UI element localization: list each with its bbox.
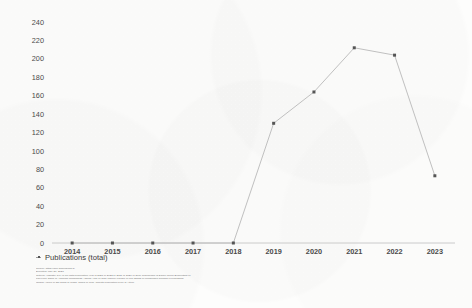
- y-axis-tick-label: 60: [36, 183, 44, 192]
- footnote-line-criteria-3: landed Aurien or Zhi Gang or Mohd. aimed…: [36, 281, 286, 284]
- data-point-marker: [71, 242, 74, 245]
- data-point-marker: [433, 174, 436, 177]
- x-axis-tick-label: 2016: [145, 247, 161, 256]
- x-axis-tick-label: 2020: [306, 247, 322, 256]
- data-point-marker: [111, 242, 114, 245]
- y-axis-tick-label: 100: [32, 147, 44, 156]
- publications-line-chart: 0204060801001201401601802002202402014201…: [0, 0, 472, 308]
- series-line-publications: [72, 48, 435, 243]
- legend-label-publications: Publications (total): [45, 253, 107, 262]
- y-axis-tick-label: 0: [40, 239, 44, 248]
- data-point-marker: [151, 242, 154, 245]
- x-axis-tick-label: 2018: [225, 247, 241, 256]
- data-point-marker: [353, 46, 356, 49]
- x-axis-tick-label: 2021: [346, 247, 362, 256]
- data-point-marker: [393, 54, 396, 57]
- legend-marker-icon: [36, 255, 41, 260]
- chart-footnote: Source: https://app.dimensions.ai Export…: [36, 267, 286, 284]
- y-axis-tick-label: 120: [32, 128, 44, 137]
- chart-legend: Publications (total): [36, 253, 107, 262]
- x-axis-tick-label: 2022: [386, 247, 402, 256]
- x-axis-tick-label: 2023: [427, 247, 443, 256]
- x-axis-tick-label: 2017: [185, 247, 201, 256]
- y-axis-tick-label: 220: [32, 36, 44, 45]
- data-point-marker: [192, 242, 195, 245]
- y-axis-tick-label: 180: [32, 73, 44, 82]
- y-axis-tick-label: 140: [32, 110, 44, 119]
- y-axis-tick-label: 20: [36, 220, 44, 229]
- y-axis-tick-label: 200: [32, 54, 44, 63]
- data-point-marker: [312, 90, 315, 93]
- data-point-marker: [272, 122, 275, 125]
- y-axis-tick-label: 80: [36, 165, 44, 174]
- x-axis-tick-label: 2019: [266, 247, 282, 256]
- y-axis-tick-label: 160: [32, 91, 44, 100]
- y-axis-tick-label: 240: [32, 18, 44, 27]
- data-point-marker: [232, 242, 235, 245]
- y-axis-tick-label: 40: [36, 202, 44, 211]
